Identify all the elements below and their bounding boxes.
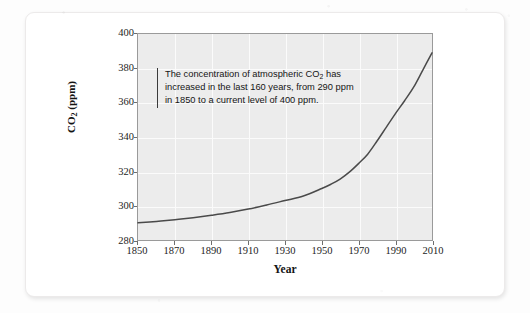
x-tick-label: 1850 xyxy=(117,246,157,257)
x-tick-mark xyxy=(359,241,360,245)
y-axis-title: CO2 (ppm) xyxy=(65,52,77,162)
x-tick-label: 1950 xyxy=(302,246,342,257)
y-axis-title-main: CO xyxy=(65,117,77,134)
plot-area xyxy=(137,33,433,241)
x-tick-mark xyxy=(433,241,434,245)
x-tick-mark xyxy=(396,241,397,245)
y-tick-label: 300 xyxy=(100,201,134,212)
x-tick-label: 1870 xyxy=(154,246,194,257)
x-tick-label: 1990 xyxy=(376,246,416,257)
y-tick-label: 340 xyxy=(100,132,134,143)
y-axis-title-unit: (ppm) xyxy=(65,81,77,112)
figure-card: CO2 (ppm) 280300320340360380400 The conc… xyxy=(25,12,505,297)
y-axis-ticks: 280300320340360380400 xyxy=(96,33,134,241)
annotation-callout: The concentration of atmospheric CO2 has… xyxy=(157,68,363,108)
x-tick-label: 1910 xyxy=(228,246,268,257)
x-tick-mark xyxy=(174,241,175,245)
x-tick-label: 1890 xyxy=(191,246,231,257)
y-tick-label: 320 xyxy=(100,167,134,178)
y-tick-label: 360 xyxy=(100,97,134,108)
co2-curve xyxy=(138,34,432,240)
y-axis-title-sub: 2 xyxy=(70,113,79,117)
annotation-subscript: 2 xyxy=(320,73,324,80)
y-tick-label: 380 xyxy=(100,63,134,74)
x-tick-mark xyxy=(322,241,323,245)
x-tick-mark xyxy=(211,241,212,245)
x-tick-label: 1930 xyxy=(265,246,305,257)
x-tick-label: 2010 xyxy=(413,246,453,257)
x-tick-mark xyxy=(285,241,286,245)
x-tick-mark xyxy=(248,241,249,245)
annotation-text-part1: The concentration of atmospheric CO xyxy=(165,69,320,79)
x-axis-ticks: 185018701890191019301950197019902010 xyxy=(137,241,433,265)
x-axis-title: Year xyxy=(137,263,433,275)
y-tick-label: 400 xyxy=(100,28,134,39)
x-tick-mark xyxy=(137,241,138,245)
x-tick-label: 1970 xyxy=(339,246,379,257)
